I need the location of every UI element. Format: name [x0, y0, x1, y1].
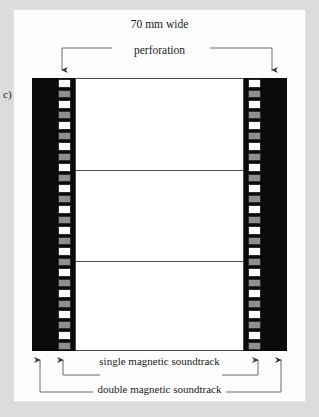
perforation-hole — [58, 79, 71, 88]
perforation-hole — [248, 142, 261, 151]
perforation-column-right — [247, 78, 262, 351]
perforation-hole — [248, 268, 261, 277]
magnetic-stripe-segment — [58, 153, 71, 162]
perforation-hole — [58, 247, 71, 256]
perforation-hole — [248, 310, 261, 319]
magnetic-stripe-segment — [58, 195, 71, 204]
magnetic-stripe-segment — [248, 195, 261, 204]
perforation-hole — [248, 184, 261, 193]
figure-part-label: c) — [3, 88, 12, 100]
frame-divider-line — [76, 170, 243, 171]
perforation-hole — [248, 205, 261, 214]
perforation-hole — [58, 226, 71, 235]
perforation-hole — [248, 331, 261, 340]
magnetic-stripe-segment — [58, 258, 71, 267]
magnetic-stripe-segment — [58, 237, 71, 246]
frame-divider-line — [76, 261, 243, 262]
magnetic-stripe-segment — [58, 132, 71, 141]
magnetic-stripe-segment — [248, 132, 261, 141]
magnetic-stripe-segment — [58, 90, 71, 99]
perforation-hole — [248, 247, 261, 256]
perforation-hole — [58, 184, 71, 193]
perforation-hole — [58, 289, 71, 298]
perforation-hole — [58, 310, 71, 319]
perforation-hole — [58, 100, 71, 109]
perforation-hole — [58, 163, 71, 172]
perforation-hole — [58, 331, 71, 340]
double-soundtrack-caption: double magnetic soundtrack — [0, 383, 319, 395]
magnetic-stripe-segment — [248, 90, 261, 99]
magnetic-stripe-segment — [58, 216, 71, 225]
single-soundtrack-caption: single magnetic soundtrack — [0, 355, 319, 367]
perforation-hole — [58, 121, 71, 130]
perforation-hole — [248, 163, 261, 172]
magnetic-stripe-segment — [248, 321, 261, 330]
magnetic-stripe-segment — [248, 342, 261, 351]
magnetic-stripe-segment — [248, 174, 261, 183]
magnetic-stripe-segment — [58, 279, 71, 288]
magnetic-stripe-segment — [248, 111, 261, 120]
magnetic-stripe-segment — [248, 237, 261, 246]
perforation-hole — [58, 268, 71, 277]
magnetic-stripe-segment — [58, 111, 71, 120]
perforation-label: perforation — [0, 44, 319, 56]
magnetic-stripe-segment — [248, 216, 261, 225]
perforation-hole — [248, 121, 261, 130]
single-soundtrack-caption-text: single magnetic soundtrack — [95, 355, 223, 367]
magnetic-stripe-segment — [58, 300, 71, 309]
film-width-caption: 70 mm wide — [0, 18, 319, 30]
perforation-hole — [248, 79, 261, 88]
magnetic-stripe-segment — [248, 279, 261, 288]
perforation-column-left — [57, 78, 72, 351]
magnetic-stripe-segment — [248, 300, 261, 309]
perforation-hole — [58, 142, 71, 151]
perforation-label-text: perforation — [128, 44, 191, 56]
double-soundtrack-caption-text: double magnetic soundtrack — [93, 383, 225, 395]
magnetic-stripe-segment — [248, 258, 261, 267]
picture-area — [75, 78, 244, 351]
perforation-hole — [248, 226, 261, 235]
magnetic-stripe-segment — [58, 321, 71, 330]
magnetic-stripe-segment — [58, 174, 71, 183]
magnetic-stripe-segment — [248, 153, 261, 162]
perforation-hole — [58, 205, 71, 214]
film-strip — [32, 78, 287, 351]
perforation-hole — [248, 100, 261, 109]
figure-page: c) 70 mm wide perforation — [0, 0, 319, 417]
magnetic-stripe-segment — [58, 342, 71, 351]
perforation-hole — [248, 289, 261, 298]
